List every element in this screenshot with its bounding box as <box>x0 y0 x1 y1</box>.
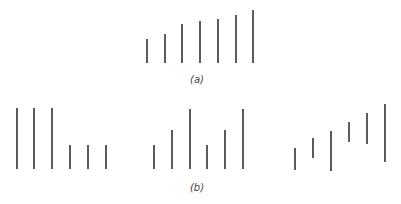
diagram-canvas <box>0 0 401 204</box>
panel-b-group-3 <box>295 104 385 171</box>
panel-a-lines <box>147 10 253 63</box>
panel-b-group-1 <box>17 108 106 169</box>
panel-a-caption: (a) <box>190 74 204 85</box>
panel-b-caption: (b) <box>190 182 204 193</box>
panel-b-group-2 <box>154 109 243 169</box>
